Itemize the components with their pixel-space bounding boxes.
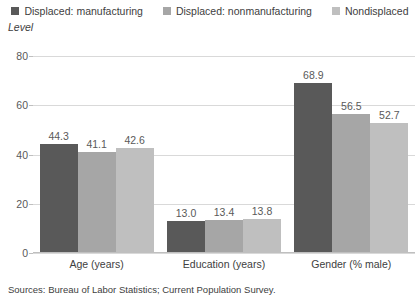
x-axis-category-label: Education (years) (160, 258, 287, 270)
legend-label: Displaced: nonmanufacturing (176, 5, 312, 17)
bar-group: 44.341.142.6 (40, 56, 154, 253)
y-axis-title: Level (8, 21, 33, 33)
y-axis-tick-label: 80 (2, 51, 28, 61)
legend-label: Displaced: manufacturing (24, 5, 142, 17)
bar[interactable] (78, 152, 116, 253)
legend-item-nondisplaced[interactable]: Nondisplaced (332, 5, 409, 17)
source-note: Sources: Bureau of Labor Statistics; Cur… (8, 284, 276, 295)
y-axis-tick-label: 0 (2, 248, 28, 258)
bar[interactable] (294, 83, 332, 253)
bar-value-label: 13.8 (239, 206, 285, 217)
x-axis-category-label: Gender (% male) (288, 258, 415, 270)
bar[interactable] (243, 219, 281, 253)
x-axis-line (33, 252, 415, 253)
bar-value-label: 52.7 (366, 110, 412, 121)
legend-label: Nondisplaced (345, 5, 409, 17)
legend-swatch-icon (163, 7, 171, 15)
bar[interactable] (205, 220, 243, 253)
bar[interactable] (116, 148, 154, 253)
bar[interactable] (40, 144, 78, 253)
gridline (33, 253, 415, 254)
x-axis-category-label: Age (years) (33, 258, 160, 270)
bar[interactable] (167, 221, 205, 253)
chart-legend: Displaced: manufacturing Displaced: nonm… (0, 3, 420, 19)
bar-value-label: 68.9 (290, 70, 336, 81)
legend-swatch-icon (11, 7, 19, 15)
plot-area: 44.341.142.613.013.413.868.956.552.7 (33, 56, 415, 253)
bar-group: 13.013.413.8 (167, 56, 281, 253)
legend-item-displaced-nonmanufacturing[interactable]: Displaced: nonmanufacturing (163, 5, 312, 17)
legend-item-displaced-manufacturing[interactable]: Displaced: manufacturing (11, 5, 142, 17)
bar[interactable] (332, 114, 370, 253)
bar-chart: Displaced: manufacturing Displaced: nonm… (0, 0, 420, 301)
y-axis-tick-label: 20 (2, 199, 28, 209)
bar[interactable] (370, 123, 408, 253)
y-axis-tick-label: 40 (2, 150, 28, 160)
y-axis-tick-label: 60 (2, 100, 28, 110)
bar-group: 68.956.552.7 (294, 56, 408, 253)
legend-swatch-icon (332, 7, 340, 15)
bar-value-label: 42.6 (112, 135, 158, 146)
